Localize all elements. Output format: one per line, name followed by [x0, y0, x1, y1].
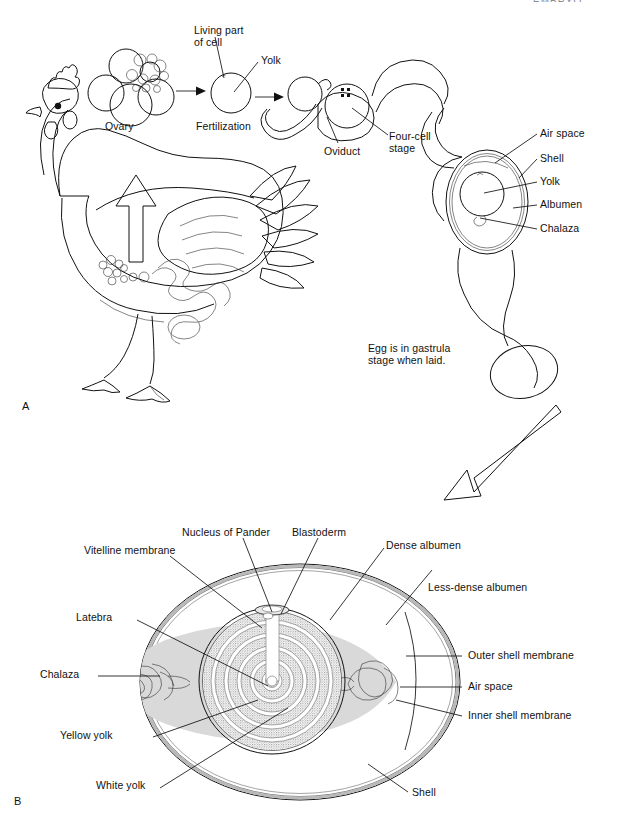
leader-yolk-a [234, 62, 258, 92]
label-latebra: Latebra [76, 612, 112, 624]
label-blastoderm: Blastoderm [292, 527, 346, 539]
arrow-ovary-to-fertilization [176, 87, 206, 96]
tail-feathers [250, 166, 318, 288]
arrow-fertilization-to-oviduct [255, 93, 284, 102]
note-gastrula-stage: Egg is in gastrula stage when laid. [368, 343, 450, 366]
label-oviduct: Oviduct [324, 146, 360, 158]
blastoderm-disc [255, 605, 289, 615]
label-inner-shell-membrane: Inner shell membrane [468, 710, 572, 722]
label-chalaza-b: Chalaza [40, 669, 79, 681]
nucleus-of-pander-marker [263, 613, 273, 619]
formed-egg-in-uterus [446, 150, 528, 254]
leader-air-space-a [495, 134, 537, 163]
latebra-neck [266, 612, 279, 681]
label-yolk-right-a: Yolk [540, 176, 560, 188]
label-albumen-a: Albumen [540, 199, 582, 211]
label-air-space-a: Air space [540, 128, 585, 140]
latebra-core [267, 676, 277, 686]
ovary-cluster-illustration [88, 49, 174, 126]
label-shell-b: Shell [412, 787, 436, 799]
panel-letter-a: A [22, 400, 29, 412]
leader-chalaza-a [480, 218, 537, 229]
label-less-dense-albumen: Less-dense albumen [428, 582, 527, 594]
leader-shell-a [519, 159, 537, 178]
panel-letter-b: B [14, 795, 21, 807]
label-white-yolk: White yolk [96, 780, 145, 792]
label-shell-a: Shell [540, 153, 564, 165]
label-vitelline-membrane: Vitelline membrane [84, 545, 176, 557]
label-nucleus-of-pander: Nucleus of Pander [182, 527, 270, 539]
label-living-part-of-cell: Living part of cell [194, 25, 244, 48]
leader-albumen-a [513, 205, 537, 208]
label-four-cell-stage: Four-cell stage [389, 131, 431, 154]
panel-b-artwork [98, 538, 462, 800]
figure-artwork [0, 0, 620, 828]
figure-page: EMBRYO [0, 0, 620, 828]
hollow-up-arrow [116, 175, 156, 262]
label-yellow-yolk: Yellow yolk [60, 730, 113, 742]
leader-yolk-right-a [484, 182, 537, 193]
arrow-panel-a-to-b [444, 405, 561, 500]
label-yolk-a: Yolk [261, 55, 281, 67]
label-chalaza-a: Chalaza [540, 223, 579, 235]
label-ovary: Ovary [105, 121, 134, 133]
label-air-space-b: Air space [468, 681, 513, 693]
label-fertilization: Fertilization [196, 121, 251, 133]
label-dense-albumen: Dense albumen [386, 540, 461, 552]
hen-illustration [26, 65, 318, 402]
fertilized-ovum-illustration [211, 73, 251, 113]
label-outer-shell-membrane: Outer shell membrane [468, 650, 574, 662]
panel-a-artwork [26, 37, 563, 405]
yolk-concentric-rings [203, 612, 341, 750]
